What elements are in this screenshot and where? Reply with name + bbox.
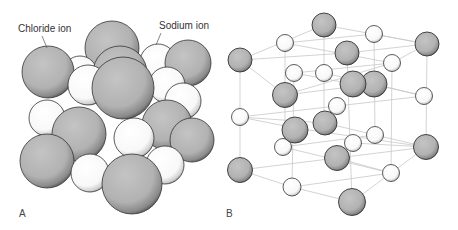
sodium-ion <box>114 118 154 158</box>
sodium-ion-label: Sodium ion <box>159 20 209 31</box>
chloride-ion <box>414 135 439 160</box>
sodium-leader-line <box>156 33 161 45</box>
sodium-ion <box>316 65 333 82</box>
sodium-ion <box>232 109 249 126</box>
chloride-ion <box>312 13 336 37</box>
sodium-ion <box>416 88 433 105</box>
panel-b-label: B <box>226 208 233 219</box>
chloride-ion <box>20 134 74 188</box>
chloride-ion <box>102 154 162 214</box>
nacl-figure <box>0 0 458 230</box>
chloride-ion <box>228 158 253 183</box>
panel-b-ions <box>228 13 440 216</box>
sodium-ion <box>277 35 294 52</box>
chloride-ion <box>340 71 366 97</box>
panel-a-label: A <box>19 208 26 219</box>
sodium-ion <box>366 26 383 43</box>
sodium-ion <box>345 135 362 152</box>
chloride-ion <box>415 32 439 56</box>
panel-a-model <box>20 21 214 214</box>
chloride-ion <box>282 117 308 143</box>
chloride-ion <box>273 83 298 108</box>
chloride-ion <box>92 57 154 119</box>
chloride-ion <box>339 189 366 216</box>
chloride-ion <box>313 111 337 135</box>
chloride-ion <box>335 41 359 65</box>
chloride-ion-label: Chloride ion <box>18 23 71 34</box>
chloride-ion <box>228 48 252 72</box>
sodium-ion <box>329 98 346 115</box>
sodium-ion <box>383 165 400 182</box>
sodium-ion <box>367 127 384 144</box>
chloride-ion <box>22 46 74 98</box>
sodium-ion <box>286 65 303 82</box>
sodium-ion <box>283 178 301 196</box>
chloride-ion <box>325 146 350 171</box>
sodium-ion <box>384 55 401 72</box>
